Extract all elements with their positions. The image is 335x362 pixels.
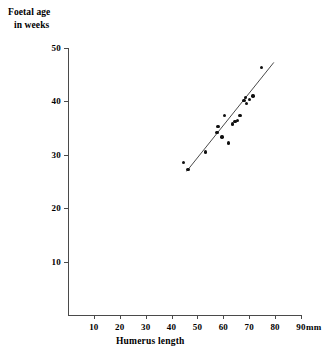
y-tick-label-40: 40 [41,96,61,106]
x-tick-20 [120,315,121,319]
y-tick-label-50: 50 [41,43,61,53]
data-point [260,66,263,69]
y-axis-label-line-1: Foetal age [8,7,50,17]
data-point [244,96,247,99]
y-axis-label: Foetal agein weeks [8,6,50,31]
data-point [248,98,251,101]
data-point [236,119,239,122]
x-axis-label: Humerus length [116,336,185,346]
y-tick-label-10: 10 [41,257,61,267]
regression-line [0,0,335,362]
data-point [182,161,185,164]
data-point [223,114,226,117]
x-tick-90 [301,315,302,319]
x-tick-label-70: 70 [238,322,260,332]
data-point [251,94,254,97]
x-axis-line [68,315,301,316]
data-point [220,135,223,138]
data-point [186,168,189,171]
x-tick-label-50: 50 [186,322,208,332]
x-tick-80 [275,315,276,319]
scatter-plot-figure: Foetal agein weeks 1020304050 1020304050… [0,0,335,362]
data-point [238,114,241,117]
x-tick-10 [94,315,95,319]
y-tick-20 [64,208,68,209]
data-point [216,125,219,128]
data-point [227,141,230,144]
data-point [245,102,248,105]
x-tick-label-30: 30 [135,322,157,332]
x-tick-label-80: 80 [264,322,286,332]
x-tick-70 [249,315,250,319]
x-axis-unit-label: mm [306,322,321,332]
y-tick-40 [64,101,68,102]
y-tick-label-30: 30 [41,150,61,160]
x-tick-label-60: 60 [212,322,234,332]
x-tick-60 [223,315,224,319]
y-axis-line [68,48,69,315]
x-tick-40 [172,315,173,319]
x-tick-30 [146,315,147,319]
y-tick-10 [64,262,68,263]
data-point [204,150,207,153]
x-tick-label-40: 40 [161,322,183,332]
data-point [215,131,218,134]
x-tick-label-10: 10 [83,322,105,332]
y-tick-30 [64,155,68,156]
y-tick-label-20: 20 [41,203,61,213]
y-axis-label-line-2: in weeks [8,19,50,32]
y-tick-50 [64,48,68,49]
x-tick-50 [197,315,198,319]
x-tick-label-20: 20 [109,322,131,332]
